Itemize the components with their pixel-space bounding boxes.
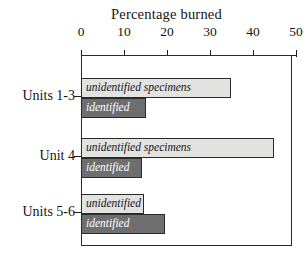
- bars-layer: unidentified specimens identified uniden…: [81, 56, 296, 246]
- bar-units-1-3-unidentified[interactable]: unidentified specimens: [81, 78, 231, 98]
- category-label-unit-4: Unit 4: [0, 148, 75, 164]
- bar-unit-4-identified[interactable]: identified: [81, 158, 142, 178]
- category-label-units-5-6: Units 5-6: [0, 204, 75, 220]
- bar-label-units-1-3-identified: identified: [82, 102, 129, 114]
- bar-label-units-1-3-unidentified: unidentified specimens: [82, 82, 191, 94]
- bar-label-units-5-6-unidentified: unidentified: [82, 198, 141, 210]
- bar-label-unit-4-unidentified: unidentified specimens: [82, 142, 191, 154]
- x-tick-50: [296, 50, 297, 57]
- x-tick-label-50: 50: [289, 24, 303, 40]
- x-tick-label-30: 30: [203, 24, 217, 40]
- x-tick-label-40: 40: [246, 24, 260, 40]
- x-tick-label-0: 0: [78, 24, 85, 40]
- bar-units-5-6-identified[interactable]: identified: [81, 214, 165, 234]
- bar-chart-figure: Percentage burned 0 10 20 30 40 50 Units…: [0, 0, 307, 265]
- bar-unit-4-unidentified[interactable]: unidentified specimens: [81, 138, 274, 158]
- x-axis: 0 10 20 30 40 50: [81, 42, 296, 56]
- x-tick-label-20: 20: [160, 24, 174, 40]
- x-tick-label-10: 10: [117, 24, 131, 40]
- chart-title: Percentage burned: [0, 6, 307, 23]
- bar-units-1-3-identified[interactable]: identified: [81, 98, 146, 118]
- bar-label-unit-4-identified: identified: [82, 162, 129, 174]
- bar-units-5-6-unidentified[interactable]: unidentified: [81, 194, 144, 214]
- category-label-units-1-3: Units 1-3: [0, 88, 75, 104]
- bar-label-units-5-6-identified: identified: [82, 218, 129, 230]
